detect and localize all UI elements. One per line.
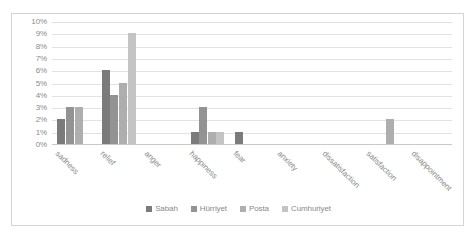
y-axis-tick-label: 7% [36, 55, 47, 63]
bar [66, 107, 74, 144]
bar [119, 83, 127, 145]
y-axis-tick-labels: 0%1%2%3%4%5%6%7%8%9%10% [12, 22, 50, 145]
x-axis-category-labels: sadnessreliefangerhappinessfearanxietydi… [52, 147, 452, 209]
legend-label: Cumhuriyet [291, 204, 331, 213]
y-axis-tick-label: 9% [36, 30, 47, 38]
legend-swatch-icon [240, 206, 246, 212]
y-axis-tick-label: 2% [36, 116, 47, 124]
y-axis-tick-label: 3% [36, 104, 47, 112]
legend-item[interactable]: Posta [240, 204, 269, 213]
bar [235, 132, 243, 144]
x-axis-category-label: anger [143, 149, 163, 169]
y-axis-tick-label: 10% [31, 18, 47, 26]
bar [386, 119, 394, 144]
chart-plot-frame: 0%1%2%3%4%5%6%7%8%9%10% sadnessreliefang… [11, 13, 464, 226]
x-axis-category-label: relief [98, 149, 116, 167]
x-axis-category-label: sadness [54, 149, 81, 176]
legend-label: Sabah [155, 204, 178, 213]
x-axis-category-label: satisfaction [365, 149, 399, 183]
chart-legend: SabahHürriyetPostaCumhuriyet [12, 204, 465, 213]
x-axis-category-label: disappointment [409, 149, 453, 193]
x-axis-category-label: happiness [187, 149, 219, 181]
y-axis-tick-label: 0% [36, 141, 47, 149]
legend-swatch-icon [146, 206, 152, 212]
x-axis-category-label: dissatisfaction [321, 149, 362, 190]
bar [75, 107, 83, 144]
chart-container: 0%1%2%3%4%5%6%7%8%9%10% sadnessreliefang… [0, 0, 475, 245]
bar [216, 132, 224, 144]
legend-item[interactable]: Sabah [146, 204, 178, 213]
legend-label: Hürriyet [200, 204, 227, 213]
bar [110, 95, 118, 144]
x-axis-category-label: fear [232, 149, 248, 165]
legend-swatch-icon [191, 206, 197, 212]
bar [191, 132, 199, 144]
bar-series-group [52, 22, 452, 145]
bar [199, 107, 207, 144]
bar [57, 119, 65, 144]
bar [102, 70, 110, 144]
y-axis-tick-label: 6% [36, 67, 47, 75]
legend-item[interactable]: Hürriyet [191, 204, 227, 213]
y-axis-tick-label: 5% [36, 80, 47, 88]
legend-swatch-icon [282, 206, 288, 212]
y-axis-tick-label: 8% [36, 43, 47, 51]
legend-item[interactable]: Cumhuriyet [282, 204, 331, 213]
y-axis-tick-label: 4% [36, 92, 47, 100]
legend-label: Posta [249, 204, 269, 213]
bar [208, 132, 216, 144]
plot-area [52, 22, 452, 145]
bar [128, 33, 136, 144]
y-axis-tick-label: 1% [36, 129, 47, 137]
x-axis-category-label: anxiety [276, 149, 300, 173]
